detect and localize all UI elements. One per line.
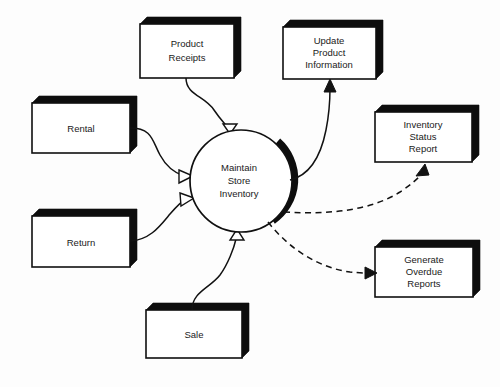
entity-product-receipts[interactable]: Product Receipts xyxy=(140,17,241,78)
flow-rental-line xyxy=(130,128,184,176)
return-label: Return xyxy=(67,237,96,248)
process-label-line2: Store xyxy=(228,175,251,186)
entity-update-product-information[interactable]: Update Product Information xyxy=(283,20,383,79)
inventory-status-report-label-line2: Status xyxy=(410,131,437,142)
flow-product-receipts-line xyxy=(186,78,229,129)
generate-overdue-reports-label-line1: Generate xyxy=(404,254,444,265)
flow-process-to-generate-overdue-reports[interactable] xyxy=(268,222,377,279)
update-product-information-label-line1: Update xyxy=(314,35,345,46)
entity-generate-overdue-reports[interactable]: Generate Overdue Reports xyxy=(375,240,480,297)
entity-inventory-status-report[interactable]: Inventory Status Report xyxy=(375,105,479,162)
flow-rental-to-process[interactable] xyxy=(130,128,193,183)
flow-update-product-information-arrowhead xyxy=(324,79,336,92)
flow-product-receipts-to-process[interactable] xyxy=(186,78,237,134)
entity-rental[interactable]: Rental xyxy=(32,96,137,153)
flow-generate-overdue-reports-line xyxy=(268,222,368,273)
entity-sale[interactable]: Sale xyxy=(146,303,249,358)
update-product-information-label-line3: Information xyxy=(305,59,353,70)
flow-inventory-status-report-line xyxy=(284,175,421,213)
update-product-information-label-line2: Product xyxy=(313,47,346,58)
sale-label: Sale xyxy=(184,329,203,340)
inventory-status-report-label-line1: Inventory xyxy=(403,119,442,130)
flow-sale-to-process[interactable] xyxy=(192,229,244,310)
product-receipts-label-line2: Receipts xyxy=(169,52,206,63)
diagram-svg: Product Receipts Rental Return Sale Upda… xyxy=(0,0,500,387)
flow-process-to-update-product-information[interactable] xyxy=(290,79,336,180)
process-maintain-store-inventory[interactable]: Maintain Store Inventory xyxy=(190,130,295,232)
rental-label: Rental xyxy=(67,123,94,134)
data-flow-diagram-canvas: Product Receipts Rental Return Sale Upda… xyxy=(0,0,500,387)
inventory-status-report-label-line3: Report xyxy=(409,143,438,154)
generate-overdue-reports-label-line2: Overdue xyxy=(406,266,442,277)
flow-return-line xyxy=(130,199,186,241)
flow-inventory-status-report-arrowhead xyxy=(416,164,429,176)
generate-overdue-reports-label-line3: Reports xyxy=(407,278,441,289)
product-receipts-label-line1: Product xyxy=(171,38,204,49)
entity-return[interactable]: Return xyxy=(32,209,137,267)
process-label-line3: Inventory xyxy=(219,188,258,199)
process-label-line1: Maintain xyxy=(221,162,257,173)
flow-return-to-process[interactable] xyxy=(130,193,194,241)
flow-sale-line xyxy=(192,239,236,310)
